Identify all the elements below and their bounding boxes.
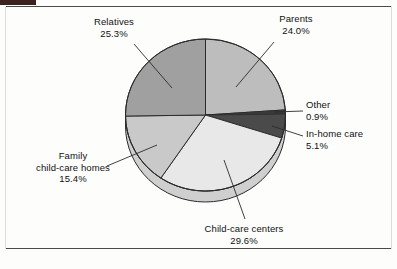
pie-label-other: Other 0.9% [306,99,392,122]
pie-label-parents-name: Parents [279,13,312,24]
pie-label-relatives-value: 25.3% [62,28,166,40]
pie-label-in-home-care: In-home care 5.1% [306,128,396,151]
pie-chart-figure: Relatives 25.3% Parents 24.0% Other 0.9%… [0,0,397,269]
pie-label-family-value: 15.4% [10,173,136,185]
pie-label-parents: Parents 24.0% [246,13,346,36]
pie-label-in-home-care-name: In-home care [306,128,363,139]
pie-label-relatives-name: Relatives [94,16,134,27]
pie-label-family-line1: Family [59,150,88,161]
pie-label-family-line2: child-care homes [10,162,136,174]
pie-slice-parents [206,39,286,115]
pie-label-other-value: 0.9% [306,111,392,123]
pie-label-relatives: Relatives 25.3% [62,16,166,39]
pie-label-child-care-centers: Child-care centers 29.6% [179,223,309,246]
pie-label-child-care-centers-value: 29.6% [179,235,309,247]
pie-slice-relatives [126,39,206,116]
pie-label-in-home-care-value: 5.1% [306,140,396,152]
pie-label-family-child-care-homes: Family child-care homes 15.4% [10,150,136,185]
pie-label-parents-value: 24.0% [246,25,346,37]
pie-label-other-name: Other [306,99,330,110]
pie-label-child-care-centers-name: Child-care centers [205,223,284,234]
